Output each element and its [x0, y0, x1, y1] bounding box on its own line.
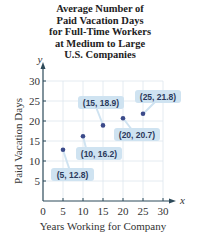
y-tick-label: 5	[35, 175, 41, 187]
data-point	[101, 123, 106, 128]
scatter-plot: x y 0 5 10 15 20 25 30 5 10 15 20 25 30 …	[0, 0, 200, 243]
y-tick-label: 20	[29, 115, 41, 127]
y-tick-label: 30	[29, 75, 41, 87]
y-axis-title: Paid Vacation Days	[12, 98, 24, 184]
x-tick-label: 30	[158, 205, 170, 217]
x-tick-label: 15	[98, 205, 110, 217]
data-point	[141, 112, 146, 117]
x-tick-labels: 0 5 10 15 20 25 30	[40, 205, 169, 217]
callout-label: (20, 20.7)	[119, 130, 156, 140]
callout-25: (25, 21.8)	[135, 90, 181, 114]
y-tick-label: 15	[29, 135, 41, 147]
x-tick-label: 20	[118, 205, 130, 217]
x-axis-letter: x	[179, 194, 185, 206]
y-tick-label: 25	[29, 95, 41, 107]
x-tick-label: 0	[40, 205, 46, 217]
callout-20: (20, 20.7)	[114, 118, 160, 141]
callouts: (5, 12.8) (10, 16.2) (15, 18.9) (20, 20.…	[51, 90, 181, 181]
data-point	[61, 148, 66, 153]
callout-label: (5, 12.8)	[57, 170, 89, 180]
data-point	[81, 134, 86, 139]
callout-label: (25, 21.8)	[140, 92, 177, 102]
callout-label: (10, 16.2)	[81, 149, 118, 159]
y-tick-label: 10	[29, 155, 41, 167]
y-tick-labels: 5 10 15 20 25 30	[29, 75, 41, 187]
x-tick-label: 25	[138, 205, 150, 217]
x-tick-label: 10	[78, 205, 90, 217]
data-point	[121, 116, 126, 121]
x-tick-label: 5	[60, 205, 66, 217]
callout-label: (15, 18.9)	[83, 98, 120, 108]
y-axis-letter: y	[37, 53, 43, 65]
x-axis-title: Years Working for Company	[40, 220, 167, 232]
